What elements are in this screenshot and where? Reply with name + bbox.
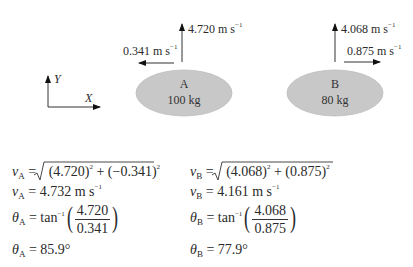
x-axis-label: X <box>85 91 92 106</box>
body-a-vertical-velocity-label: 4.720 m s−1 <box>188 22 242 37</box>
exponent: −1 <box>94 183 101 191</box>
eq-b-angle-result: θB = 77.9° <box>190 243 248 257</box>
theta-symbol: θ <box>190 242 197 257</box>
body-a-name: A <box>160 76 208 92</box>
subscript: B <box>197 217 203 227</box>
exponent: 2 <box>89 163 93 171</box>
value-text: 0.341 m s <box>123 44 170 58</box>
theta-symbol: θ <box>190 210 197 225</box>
term: + (0.875) <box>270 164 326 179</box>
exponent: −1 <box>272 183 279 191</box>
term: (4.720) <box>49 164 90 179</box>
left-paren: ( <box>67 202 73 232</box>
numerator: 4.720 <box>75 204 111 220</box>
right-paren: ) <box>112 202 118 232</box>
eq-b-angle-formula: θB = tan−1(4.0680.875) <box>190 203 298 235</box>
eq-b-speed-formula: vB = (4.068)2 + (0.875)2 <box>190 165 330 179</box>
value: 4.161 m s <box>217 184 272 199</box>
exponent: 2 <box>157 163 161 171</box>
denominator: 0.341 <box>75 220 111 236</box>
equals: = <box>206 164 214 179</box>
fraction: 4.0680.875 <box>252 204 288 236</box>
subscript: B <box>196 191 202 201</box>
body-a-horizontal-velocity-label: 0.341 m s−1 <box>123 44 177 59</box>
body-b-horizontal-velocity-label: 0.875 m s−1 <box>347 44 401 59</box>
exponent: 2 <box>326 163 330 171</box>
y-axis-label: Y <box>54 72 61 87</box>
value-text: 0.875 m s <box>347 44 394 58</box>
equals: = <box>206 242 214 257</box>
eq-a-speed-result: vA = 4.732 m s−1 <box>12 185 102 199</box>
eq-a-speed-formula: vA = (4.720)2 + (−0.341)2 <box>12 165 160 179</box>
subscript: A <box>18 171 25 181</box>
exponent: −1 <box>235 210 242 218</box>
exponent: 2 <box>267 163 271 171</box>
equals: = <box>206 210 214 225</box>
value-text: 4.720 m s <box>188 22 235 36</box>
body-b-mass: 80 kg <box>311 92 359 108</box>
term: (4.068) <box>226 164 267 179</box>
tan-function: tan <box>40 210 57 225</box>
angle-value: 77.9° <box>218 242 248 257</box>
theta-symbol: θ <box>12 210 19 225</box>
body-b-vertical-velocity-label: 4.068 m s−1 <box>341 22 395 37</box>
body-a-label: A 100 kg <box>160 76 208 108</box>
left-paren: ( <box>244 202 250 232</box>
theta-symbol: θ <box>12 242 19 257</box>
exponent: −1 <box>235 21 242 29</box>
subscript: A <box>19 217 26 227</box>
subscript: B <box>197 249 203 259</box>
eq-a-angle-formula: θA = tan−1(4.7200.341) <box>12 203 120 235</box>
numerator: 4.068 <box>252 204 288 220</box>
angle-value: 85.9° <box>40 242 70 257</box>
subscript: B <box>196 171 202 181</box>
equals: = <box>206 184 214 199</box>
radicand: (4.068)2 + (0.875)2 <box>226 164 330 179</box>
subscript: A <box>18 191 25 201</box>
eq-a-angle-result: θA = 85.9° <box>12 243 70 257</box>
subscript: A <box>19 249 26 259</box>
body-b-label: B 80 kg <box>311 76 359 108</box>
denominator: 0.875 <box>252 220 288 236</box>
body-a-mass: 100 kg <box>160 92 208 108</box>
equals: = <box>29 242 37 257</box>
equals: = <box>29 210 37 225</box>
exponent: −1 <box>388 21 395 29</box>
fraction: 4.7200.341 <box>75 204 111 236</box>
eq-b-speed-result: vB = 4.161 m s−1 <box>190 185 279 199</box>
tan-function: tan <box>218 210 235 225</box>
exponent: −1 <box>394 43 401 51</box>
equals: = <box>28 164 36 179</box>
value: 4.732 m s <box>40 184 95 199</box>
term: + (−0.341) <box>93 164 157 179</box>
exponent: −1 <box>170 43 177 51</box>
equals: = <box>28 184 36 199</box>
right-paren: ) <box>290 202 296 232</box>
exponent: −1 <box>57 210 64 218</box>
radicand: (4.720)2 + (−0.341)2 <box>49 164 160 179</box>
value-text: 4.068 m s <box>341 22 388 36</box>
body-b-name: B <box>311 76 359 92</box>
